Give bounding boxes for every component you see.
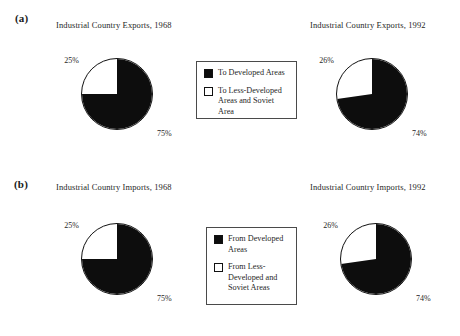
pie-circle (340, 223, 412, 295)
pie-label-light-slice: 25% (64, 56, 79, 65)
filled-square-icon (214, 235, 223, 244)
pie-label-dark-slice: 75% (157, 294, 172, 303)
filled-square-icon (204, 69, 213, 78)
chart-title-imports-1968: Industrial Country Imports, 1968 (56, 182, 172, 192)
pie-label-dark-slice: 75% (157, 129, 172, 138)
pie-circle (81, 58, 153, 130)
empty-square-icon (204, 87, 213, 96)
pie-label-dark-slice: 74% (412, 129, 427, 138)
legend-imports: From Developed Areas From Less- Develope… (206, 227, 297, 305)
pie-label-light-slice: 26% (323, 221, 338, 230)
pie-chart-exports-1968: 25% 75% (81, 58, 157, 134)
chart-title-imports-1992: Industrial Country Imports, 1992 (310, 182, 426, 192)
pie-label-light-slice: 25% (64, 221, 79, 230)
pie-circle (336, 58, 408, 130)
pie-label-light-slice: 26% (319, 56, 334, 65)
legend-item: From Developed Areas (214, 234, 289, 255)
pie-slice-developed (82, 224, 152, 294)
chart-title-exports-1968: Industrial Country Exports, 1968 (56, 20, 172, 30)
legend-item-label: From Less- Developed and Soviet Areas (228, 262, 277, 294)
pie-slice-developed (337, 59, 407, 129)
chart-title-exports-1992: Industrial Country Exports, 1992 (310, 20, 426, 30)
panel-exports: (a) Industrial Country Exports, 1968 Ind… (0, 0, 460, 168)
panel-imports: (b) Industrial Country Imports, 1968 Ind… (0, 168, 460, 336)
pie-slice-developed (82, 59, 152, 129)
pie-label-dark-slice: 74% (416, 294, 431, 303)
legend-item: To Less-Developed Areas and Soviet Area (204, 86, 289, 118)
pie-chart-exports-1992: 26% 74% (336, 58, 412, 134)
pie-chart-imports-1968: 25% 75% (81, 223, 157, 299)
legend-exports: To Developed Areas To Less-Developed Are… (196, 61, 297, 119)
panel-label-a: (a) (15, 12, 28, 24)
legend-item-label: To Developed Areas (218, 68, 285, 79)
legend-item-label: From Developed Areas (228, 234, 283, 255)
pie-slice-developed (341, 224, 411, 294)
empty-square-icon (214, 263, 223, 272)
legend-item: To Developed Areas (204, 68, 289, 79)
pie-circle (81, 223, 153, 295)
panel-label-b: (b) (14, 178, 28, 190)
pie-chart-imports-1992: 26% 74% (340, 223, 416, 299)
legend-item-label: To Less-Developed Areas and Soviet Area (218, 86, 282, 118)
legend-item: From Less- Developed and Soviet Areas (214, 262, 289, 294)
